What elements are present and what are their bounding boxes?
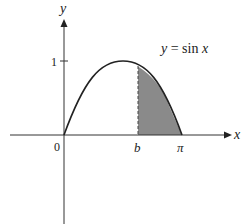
shaded-region (138, 67, 182, 136)
function-label: y = sin x (159, 41, 209, 56)
b-label: b (134, 140, 141, 155)
y-axis-arrow-icon (61, 19, 68, 27)
sine-area-diagram: y x 0 1 b π y = sin x (0, 0, 246, 224)
y-axis-label: y (58, 1, 67, 16)
origin-label: 0 (54, 140, 60, 154)
y-tick-label-1: 1 (51, 55, 57, 69)
pi-label: π (177, 140, 184, 155)
x-axis-label: x (233, 127, 241, 142)
x-axis-arrow-icon (224, 132, 232, 139)
